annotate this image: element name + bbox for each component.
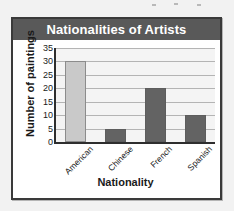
chart-title: Nationalities of Artists xyxy=(47,22,187,37)
speckle-mark xyxy=(197,4,201,6)
y-axis-tick-label: 10 xyxy=(34,111,53,119)
y-axis-tick-label: 30 xyxy=(34,57,53,65)
bar xyxy=(65,61,86,142)
bar-series xyxy=(56,48,215,142)
y-axis-tick-label: 0 xyxy=(34,138,53,146)
bar xyxy=(185,115,206,142)
y-axis-tick-label: 35 xyxy=(34,44,53,52)
chart-title-banner: Nationalities of Artists xyxy=(13,19,220,40)
chart-figure-frame: Nationalities of Artists Number of paint… xyxy=(11,17,222,200)
y-axis-tick-label: 15 xyxy=(34,98,53,106)
x-axis-tick-label: Spanish xyxy=(185,144,214,173)
y-axis-tick-label: 5 xyxy=(34,125,53,133)
speckle-mark xyxy=(174,3,178,5)
bar xyxy=(145,88,166,142)
plot-area xyxy=(54,48,215,144)
y-axis-tick-label: 25 xyxy=(34,71,53,79)
x-axis-tick-label: Chinese xyxy=(106,144,135,173)
y-axis-tick-label: 20 xyxy=(34,84,53,92)
x-axis-title: Nationality xyxy=(43,176,208,188)
bar xyxy=(105,129,126,142)
y-axis-tick-labels: 05101520253035 xyxy=(34,44,53,142)
x-axis-tick-label: French xyxy=(149,144,175,170)
speckle-mark xyxy=(152,4,156,6)
x-axis-tick-label: American xyxy=(62,144,94,176)
scan-speckle-artifact xyxy=(150,2,220,8)
